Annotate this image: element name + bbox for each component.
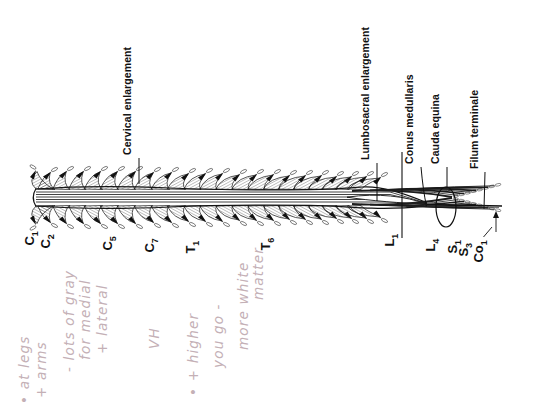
rootlet-fan-bottom [84, 206, 102, 224]
spinal-cord-drawing [0, 0, 536, 411]
cord-left-cap [33, 189, 36, 207]
spinal-cord-figure-page: Cervical enlargementLumbosacral enlargem… [0, 0, 536, 411]
rootlet-fan-top [69, 172, 86, 190]
rootlet-fan-bottom [69, 206, 86, 224]
rootlet-fan-top [84, 172, 102, 190]
leader-filum-terminale [484, 172, 485, 209]
leader-s3 [484, 227, 493, 237]
co1-arrowhead-icon [493, 211, 499, 218]
